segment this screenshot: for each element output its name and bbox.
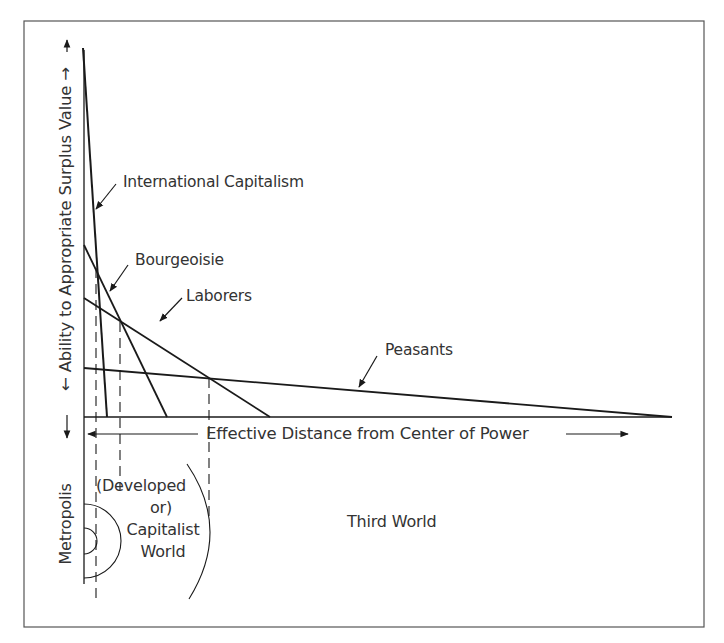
arrow-bourgeoisie <box>110 265 128 291</box>
label-metropolis: Metropolis <box>58 474 76 574</box>
line-bourgeoisie <box>84 245 167 417</box>
line-laborers <box>84 298 270 417</box>
label-developed-line4: World <box>118 544 208 560</box>
arrow-laborers <box>160 298 182 321</box>
arrow-international-capitalism <box>96 184 116 209</box>
label-international-capitalism: International Capitalism <box>123 175 304 191</box>
diagram-canvas <box>0 0 724 643</box>
y-axis-label: ← Ability to Appropriate Surplus Value → <box>58 52 76 406</box>
line-peasants <box>84 368 672 417</box>
label-developed-line1: (Developed <box>88 478 194 494</box>
label-third-world: Third World <box>347 514 437 530</box>
label-laborers: Laborers <box>186 289 252 305</box>
x-axis-label: Effective Distance from Center of Power <box>206 426 529 443</box>
line-international-capitalism <box>83 48 107 417</box>
label-developed-line3: Capitalist <box>118 522 208 538</box>
diagram-figure: ← Ability to Appropriate Surplus Value →… <box>0 0 724 643</box>
label-bourgeoisie: Bourgeoisie <box>135 253 224 269</box>
arrow-peasants <box>359 356 377 387</box>
metropolis-inner-arc <box>84 528 97 554</box>
label-peasants: Peasants <box>385 343 453 359</box>
label-developed-line2: or) <box>108 500 214 516</box>
